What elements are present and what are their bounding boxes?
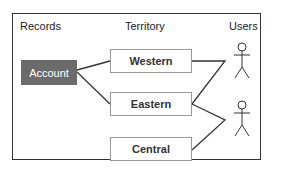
territory-western: Western — [110, 49, 192, 73]
territory-eastern: Eastern — [110, 92, 192, 116]
record-account: Account — [21, 60, 77, 85]
stick-figure-icon — [234, 101, 250, 136]
territory-central: Central — [110, 137, 192, 161]
stick-figure-icon — [234, 43, 250, 78]
